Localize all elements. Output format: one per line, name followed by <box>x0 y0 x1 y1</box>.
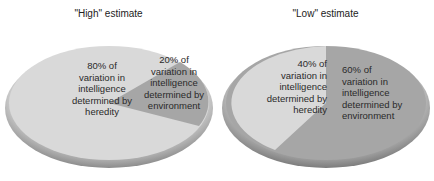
high-estimate-pie-chart: "High" estimate 80% of variation in inte… <box>0 0 217 181</box>
environment-label: 20% of variation in intelligence determi… <box>140 54 208 112</box>
heredity-label: 80% of variation in intelligence determi… <box>52 60 152 118</box>
low-estimate-pie-chart: "Low" estimate 40% of variation in intel… <box>217 0 434 181</box>
environment-label: 60% of variation in intelligence determi… <box>342 64 422 122</box>
heredity-label: 40% of variation in intelligence determi… <box>247 58 327 116</box>
